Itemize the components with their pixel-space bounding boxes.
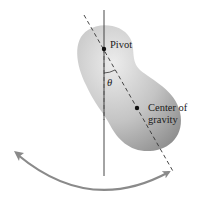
pivot-label: Pivot — [110, 39, 132, 50]
pivot-point — [102, 47, 106, 51]
physical-pendulum-diagram: Pivot θ Center of gravity — [0, 0, 207, 200]
center-of-gravity-label-line1: Center of — [148, 102, 188, 113]
center-of-gravity-label-line2: gravity — [148, 114, 178, 125]
swing-motion-arrow — [18, 155, 169, 190]
center-of-gravity-point — [135, 106, 139, 110]
theta-label: θ — [107, 77, 112, 88]
